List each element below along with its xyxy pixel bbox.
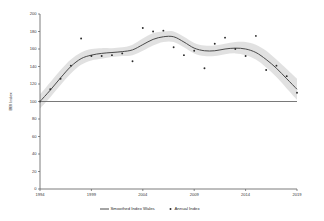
y-axis: 020406080100120140160180200 BBI Index: [8, 11, 40, 191]
confidence-band: [40, 31, 297, 108]
y-tick-label: 160: [30, 46, 38, 51]
x-tick-label: 2019: [292, 192, 302, 197]
chart-legend: Smoothed Index WalesAnnual Index: [100, 206, 200, 211]
y-tick-label: 20: [32, 169, 37, 174]
data-point: [204, 67, 206, 69]
y-tick-label: 120: [30, 81, 38, 86]
x-tick-label: 2004: [138, 192, 148, 197]
data-point: [60, 78, 62, 80]
data-point: [286, 75, 288, 77]
legend-label: Annual Index: [175, 206, 201, 211]
data-point: [214, 43, 216, 45]
data-point: [296, 92, 298, 94]
data-point: [245, 55, 247, 57]
y-tick-label: 40: [32, 151, 37, 156]
data-point: [49, 88, 51, 90]
data-point: [101, 55, 103, 57]
y-tick-label: 0: [34, 186, 37, 191]
data-point: [183, 54, 185, 56]
data-point: [111, 54, 113, 56]
x-tick-label: 2009: [190, 192, 200, 197]
y-axis-title: BBI Index: [8, 92, 13, 111]
data-point: [234, 48, 236, 50]
x-tick-label: 2014: [241, 192, 251, 197]
data-point: [121, 52, 123, 54]
data-point: [152, 31, 154, 33]
chart-container: 020406080100120140160180200 BBI Index 19…: [0, 0, 324, 221]
data-point: [265, 69, 267, 71]
y-tick-group: 020406080100120140160180200: [30, 11, 40, 191]
y-tick-label: 100: [30, 99, 38, 104]
data-point: [162, 30, 164, 32]
x-axis: 199419992004200920142019: [35, 189, 302, 197]
y-tick-label: 80: [32, 116, 37, 121]
y-tick-label: 60: [32, 134, 37, 139]
data-point: [275, 65, 277, 67]
data-point: [255, 35, 257, 37]
data-point: [193, 50, 195, 52]
data-point: [173, 46, 175, 48]
data-point: [224, 37, 226, 39]
data-point: [132, 60, 134, 62]
data-point: [80, 38, 82, 40]
x-tick-label: 1994: [35, 192, 45, 197]
x-tick-label: 1999: [87, 192, 97, 197]
y-tick-label: 200: [30, 11, 38, 16]
confidence-band-group: [40, 31, 297, 108]
legend-label: Smoothed Index Wales: [111, 206, 155, 211]
bbi-index-line-chart: 020406080100120140160180200 BBI Index 19…: [0, 0, 324, 221]
data-point: [70, 65, 72, 67]
data-point: [142, 27, 144, 29]
data-point: [90, 55, 92, 57]
y-tick-label: 180: [30, 29, 38, 34]
legend-dot-marker: [170, 208, 172, 210]
x-tick-group: 199419992004200920142019: [35, 189, 302, 197]
y-tick-label: 140: [30, 64, 38, 69]
